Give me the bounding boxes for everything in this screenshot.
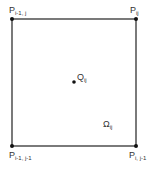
label-center: Qij [77,73,87,83]
label-bottom-right: Pi, j-1 [129,151,146,161]
label-cell: Ωij [103,120,112,130]
cell-diagram [0,0,156,170]
center-point [72,80,76,84]
label-top-right: Pij [130,6,139,16]
corner-point-top-left [10,17,14,21]
corner-point-top-right [134,17,138,21]
corner-point-bottom-right [134,144,138,148]
corner-point-bottom-left [10,144,14,148]
label-top-left: Pi-1, j [9,6,26,16]
label-bottom-left: Pi-1, j-1 [9,151,32,161]
